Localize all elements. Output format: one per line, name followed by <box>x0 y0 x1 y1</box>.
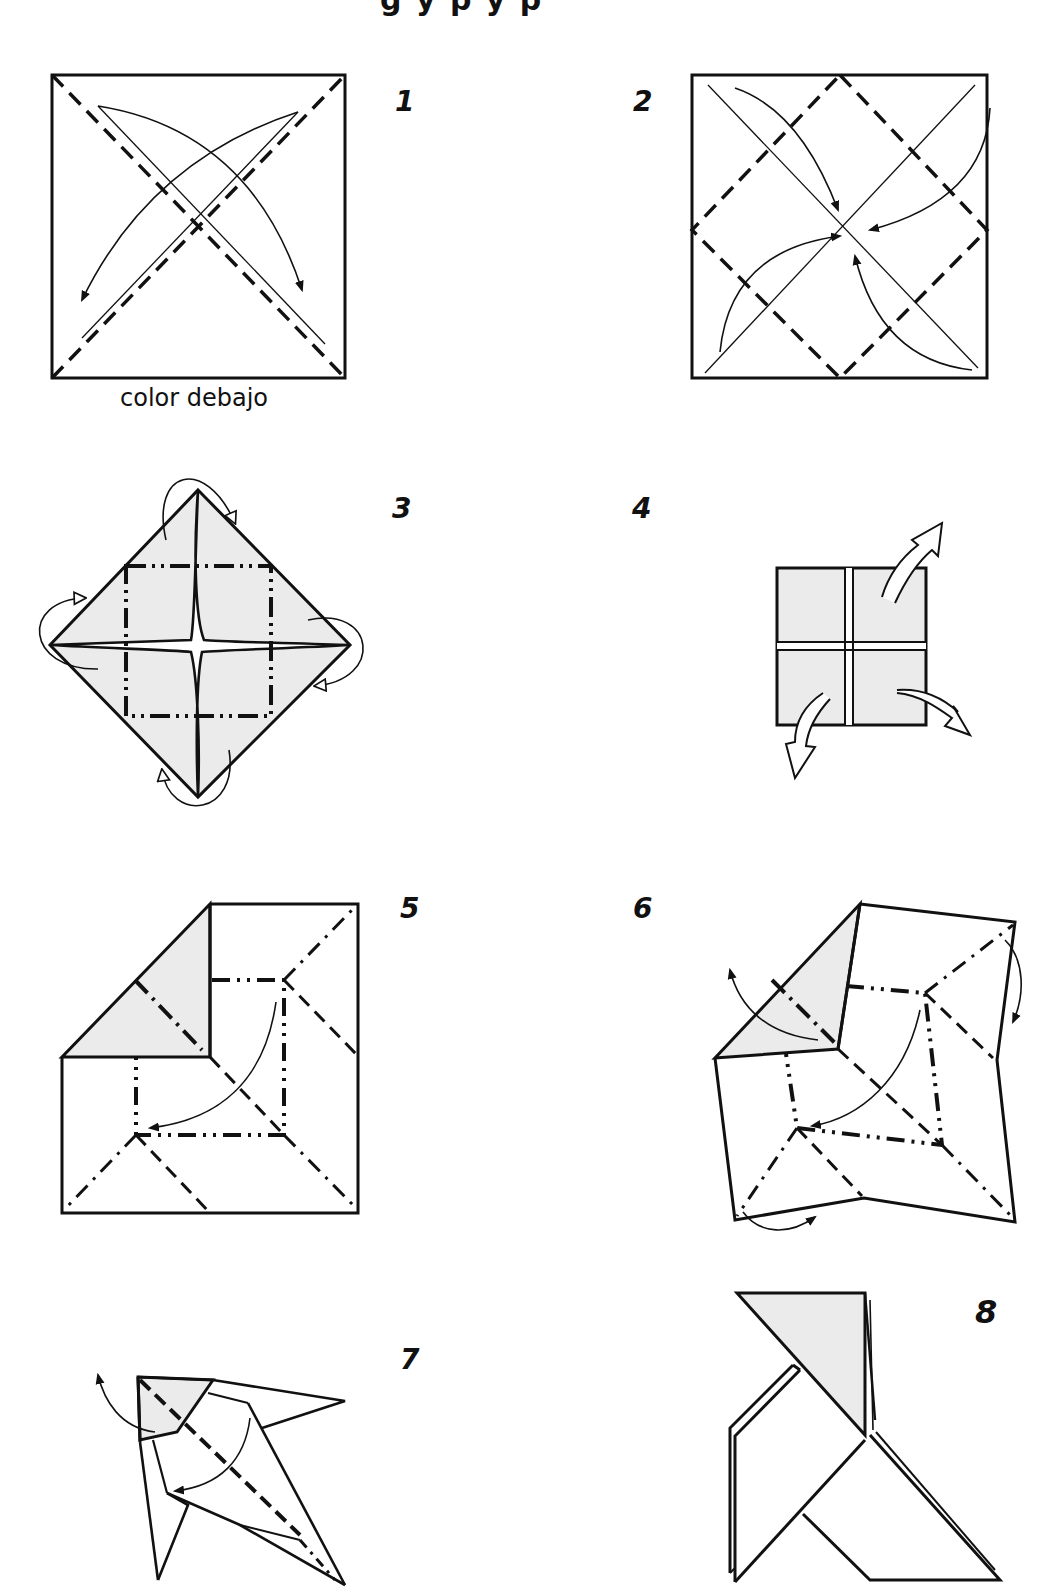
step-number-2: 2 <box>633 85 652 118</box>
step-number-8: 8 <box>975 1293 997 1331</box>
step-number-5: 5 <box>400 892 419 925</box>
step-1-diagram <box>0 0 1050 1596</box>
step-5 <box>62 904 358 1213</box>
step-number-1: 1 <box>395 85 414 118</box>
step-2 <box>692 75 990 378</box>
step-number-6: 6 <box>633 892 652 925</box>
step-8 <box>730 1293 1000 1582</box>
step-number-4: 4 <box>632 492 651 525</box>
step-6 <box>715 904 1021 1230</box>
step-4 <box>777 523 970 778</box>
step-1-caption: color debajo <box>120 384 268 412</box>
step-7 <box>98 1375 345 1585</box>
step-number-3: 3 <box>392 492 411 525</box>
step-3 <box>40 479 364 806</box>
origami-instructions-page: g y p y p <box>0 0 1050 1596</box>
step-1 <box>52 75 345 378</box>
step-number-7: 7 <box>400 1343 419 1376</box>
